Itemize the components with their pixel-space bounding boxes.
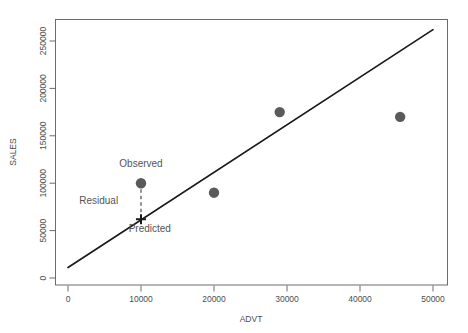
x-tick-label: 20000 [202, 294, 226, 304]
y-tick-label: 50000 [38, 219, 48, 243]
y-tick-label: 200000 [38, 74, 48, 103]
x-tick-label: 30000 [275, 294, 299, 304]
data-point [209, 187, 219, 197]
residual-label: Residual [79, 195, 118, 206]
y-tick-label: 250000 [38, 27, 48, 56]
x-axis-title: ADVT [240, 314, 263, 324]
x-tick-label: 0 [66, 294, 71, 304]
x-tick-label: 40000 [348, 294, 372, 304]
data-point [275, 107, 285, 117]
observed-label: Observed [119, 158, 162, 169]
scatter-plot-figure: 01000020000300004000050000 0500001000001… [0, 0, 468, 333]
figure-background [0, 0, 468, 333]
y-tick-label: 100000 [38, 169, 48, 198]
x-tick-label: 10000 [129, 294, 153, 304]
x-tick-label: 50000 [421, 294, 445, 304]
data-point [395, 112, 405, 122]
y-axis-title: SALES [8, 138, 18, 166]
y-tick-label: 150000 [38, 121, 48, 150]
y-tick-label: 0 [38, 275, 48, 280]
predicted-label: Predicted [129, 223, 171, 234]
data-point [136, 178, 146, 188]
